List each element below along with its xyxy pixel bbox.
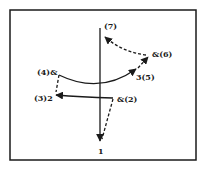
label-top: (7) (104, 21, 117, 31)
label-lower-left: (3)2 (34, 93, 53, 103)
dashed-5-to-6 (138, 57, 148, 68)
arc-4-to-5 (59, 69, 136, 84)
dashed-2-to-1 (102, 99, 113, 139)
label-upper-right: &(6) (152, 49, 173, 59)
label-mid-right: 3(5) (136, 72, 155, 82)
dashed-6-to-7 (105, 37, 146, 55)
arc-2-to-3 (56, 95, 113, 98)
label-upper-left: (4)& (37, 67, 58, 77)
dashed-4-to-3 (56, 75, 59, 92)
move-diagram: (7) 1 (4)& &(6) 3(5) (3)2 &(2) (0, 0, 204, 170)
label-bottom: 1 (98, 146, 104, 156)
label-lower-right: &(2) (117, 94, 138, 104)
diagram-frame (10, 10, 196, 160)
